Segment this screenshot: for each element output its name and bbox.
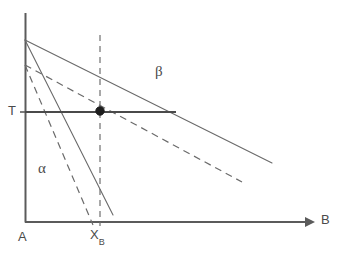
beta-solid-line (25, 40, 272, 163)
alpha-dashed-line (25, 65, 93, 225)
beta-region-label: β (155, 64, 163, 79)
figure-root: A B T XB α β (0, 0, 351, 256)
beta-dashed-line (25, 65, 242, 182)
x-tick-label-xb-base: X (90, 227, 99, 242)
x-tick-label-xb-subscript: B (99, 237, 105, 247)
origin-label-a: A (18, 230, 27, 243)
diagram-canvas (0, 0, 351, 256)
x-axis-arrow-icon (305, 217, 315, 227)
x-tick-label-xb: XB (90, 228, 105, 245)
alpha-region-label: α (38, 161, 46, 176)
y-tick-label-t: T (8, 104, 16, 117)
x-axis-label-b: B (321, 213, 330, 226)
equilibrium-point-marker (96, 107, 104, 115)
